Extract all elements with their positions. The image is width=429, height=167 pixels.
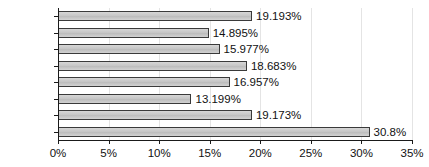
bar-fill [59, 45, 219, 53]
bar [58, 61, 247, 71]
bar-value-label: 15.977% [224, 41, 269, 58]
bar-value-label: 16.957% [234, 74, 279, 91]
bar [58, 94, 191, 104]
x-axis-tick [109, 140, 110, 144]
bar [58, 11, 252, 21]
x-axis-label: 10% [148, 146, 171, 160]
x-axis-label: 35% [400, 146, 423, 160]
bar-row: NOECD16.957% [58, 74, 412, 91]
x-axis-tick [361, 140, 362, 144]
bar-fill [59, 128, 369, 136]
gridline [412, 8, 413, 140]
bar-value-label: 18.683% [251, 58, 296, 75]
bar-row: EAP30.8% [58, 124, 412, 141]
bar [58, 28, 209, 38]
x-axis-label: 25% [299, 146, 322, 160]
x-axis-tick [58, 140, 59, 144]
bar-fill [59, 62, 246, 70]
bar-fill [59, 78, 229, 86]
bar-row: WLD19.193% [58, 8, 412, 25]
x-axis-tick [412, 140, 413, 144]
bar [58, 77, 230, 87]
bar-row: LAC19.173% [58, 107, 412, 124]
bar [58, 127, 370, 137]
x-axis-line [58, 140, 413, 141]
bar-fill [59, 12, 251, 20]
bar-chart: WLD19.193%SSA14.895%SAS15.977%OECD18.683… [0, 0, 429, 167]
bar-value-label: 13.199% [195, 91, 240, 108]
x-axis-label: 30% [350, 146, 373, 160]
bar-value-label: 19.173% [256, 107, 301, 124]
bar-fill [59, 111, 251, 119]
x-axis-label: 15% [198, 146, 221, 160]
x-axis-label: 5% [100, 146, 117, 160]
bar-value-label: 30.8% [374, 124, 407, 141]
x-axis-label: 0% [50, 146, 67, 160]
bar [58, 44, 220, 54]
bar-row: OECD18.683% [58, 58, 412, 75]
x-axis-tick [159, 140, 160, 144]
x-axis-tick [311, 140, 312, 144]
plot-area: WLD19.193%SSA14.895%SAS15.977%OECD18.683… [58, 8, 412, 140]
bar-value-label: 19.193% [256, 8, 301, 25]
bar-fill [59, 95, 190, 103]
x-axis-label: 20% [249, 146, 272, 160]
bar [58, 110, 252, 120]
x-axis-tick [210, 140, 211, 144]
bar-row: SAS15.977% [58, 41, 412, 58]
y-axis-line [58, 8, 59, 140]
bar-value-label: 14.895% [213, 25, 258, 42]
bar-row: SSA14.895% [58, 25, 412, 42]
bar-row: MENA13.199% [58, 91, 412, 108]
x-axis-tick [260, 140, 261, 144]
bar-fill [59, 29, 208, 37]
